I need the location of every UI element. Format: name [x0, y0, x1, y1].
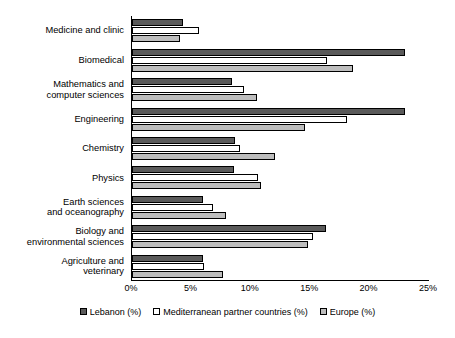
bar — [132, 78, 232, 85]
category-label: Medicine and clinic — [0, 25, 124, 36]
legend-swatch — [320, 308, 327, 315]
bar-group — [132, 108, 429, 131]
bar — [132, 241, 308, 248]
x-tick-label: 0% — [124, 283, 137, 293]
category-label: Agriculture andveterinary — [0, 256, 124, 277]
bar — [132, 255, 203, 262]
category-label: Biomedical — [0, 55, 124, 66]
bar — [132, 271, 223, 278]
bar — [132, 225, 326, 232]
bars-layer — [132, 16, 429, 281]
bar-group — [132, 78, 429, 101]
bar-group — [132, 49, 429, 72]
bar-group — [132, 137, 429, 160]
bar — [132, 137, 235, 144]
category-label: Mathematics andcomputer sciences — [0, 79, 124, 100]
bar-group — [132, 255, 429, 278]
legend-label: Mediterranean partner countries (%) — [163, 307, 308, 317]
bar — [132, 153, 275, 160]
x-tick-label: 20% — [360, 283, 378, 293]
bar — [132, 35, 180, 42]
bar-group — [132, 166, 429, 189]
bar — [132, 49, 405, 56]
bar — [132, 196, 203, 203]
x-tick-label: 15% — [300, 283, 318, 293]
legend-item: Lebanon (%) — [80, 306, 142, 317]
bar — [132, 204, 213, 211]
bar — [132, 57, 327, 64]
bar — [132, 212, 226, 219]
bar — [132, 182, 261, 189]
bar — [132, 124, 305, 131]
bar — [132, 174, 258, 181]
category-label: Physics — [0, 173, 124, 184]
x-tick-label: 5% — [184, 283, 197, 293]
bar — [132, 27, 199, 34]
chart-legend: Lebanon (%)Mediterranean partner countri… — [0, 306, 455, 317]
bar — [132, 116, 347, 123]
chart-container: Medicine and clinicBiomedicalMathematics… — [0, 0, 455, 338]
legend-swatch — [153, 308, 160, 315]
legend-label: Europe (%) — [330, 307, 376, 317]
bar — [132, 108, 405, 115]
bar — [132, 65, 353, 72]
legend-label: Lebanon (%) — [90, 307, 142, 317]
bar-group — [132, 225, 429, 248]
bar-group — [132, 196, 429, 219]
category-label: Biology andenvironmental sciences — [0, 226, 124, 247]
legend-item: Mediterranean partner countries (%) — [153, 306, 308, 317]
x-tick-label: 10% — [241, 283, 259, 293]
bar — [132, 233, 313, 240]
x-axis-tick-labels: 0%5%10%15%20%25% — [131, 283, 429, 297]
legend-item: Europe (%) — [320, 306, 376, 317]
y-axis-category-labels: Medicine and clinicBiomedicalMathematics… — [0, 16, 128, 281]
bar-group — [132, 19, 429, 42]
x-tick-label: 25% — [419, 283, 437, 293]
bar — [132, 145, 240, 152]
bar — [132, 94, 257, 101]
category-label: Earth sciencesand oceanography — [0, 197, 124, 218]
category-label: Chemistry — [0, 143, 124, 154]
bar — [132, 86, 244, 93]
category-label: Engineering — [0, 114, 124, 125]
legend-swatch — [80, 308, 87, 315]
bar — [132, 19, 183, 26]
bar — [132, 263, 204, 270]
bar — [132, 166, 234, 173]
